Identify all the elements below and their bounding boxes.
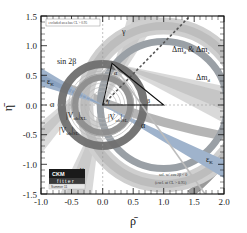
y-tick-label: 1.5 <box>26 12 38 22</box>
x-tick-label: 0.5 <box>128 197 140 207</box>
ckm-plot-figure: -1.0 -0.5 0.0 0.5 1.0 1.5 2.0 1.5 1.0 0.… <box>0 0 247 233</box>
y-tick-label: 1.0 <box>26 41 38 51</box>
angle-label-gamma: γ <box>106 98 110 104</box>
label-delta-md-ms: Δmd & Δms <box>172 45 209 55</box>
x-tick-label: 2.0 <box>218 197 230 207</box>
cos2beta-note-line2: (excl. at CL > 0.95) <box>155 180 187 185</box>
cos2beta-note-line1: sol. w/ cos 2β < 0 <box>159 172 187 177</box>
excluded-area-note: excluded area has CL > 0.95 <box>46 19 100 26</box>
excluded-area-note-text: excluded area has CL > 0.95 <box>49 21 88 25</box>
x-tick-label: 0.0 <box>97 197 109 207</box>
label-sin2beta: sin 2β <box>57 57 76 66</box>
plot-svg: -1.0 -0.5 0.0 0.5 1.0 1.5 2.0 1.5 1.0 0.… <box>0 0 247 233</box>
ckmfitter-logo-line1: CKM <box>52 171 65 177</box>
x-tick-label: 1.0 <box>158 197 170 207</box>
ckmfitter-logo-date: Summer 11 <box>51 185 67 189</box>
plot-content <box>41 16 243 194</box>
label-gamma-top: γ <box>121 27 126 36</box>
ckmfitter-logo-line2: f i t t e r <box>57 178 74 184</box>
x-tick-label: 1.5 <box>189 197 201 207</box>
y-tick-label: 0.0 <box>26 101 38 111</box>
x-tick-label: -0.5 <box>64 197 79 207</box>
y-tick-label: -1.0 <box>23 160 38 170</box>
angle-label-beta: β <box>147 98 150 104</box>
y-tick-label: 0.5 <box>26 71 38 81</box>
y-tick-label: -1.5 <box>23 190 38 200</box>
ckmfitter-logo: CKM f i t t e r Summer 11 <box>49 169 85 189</box>
y-tick-label: -0.5 <box>23 130 38 140</box>
